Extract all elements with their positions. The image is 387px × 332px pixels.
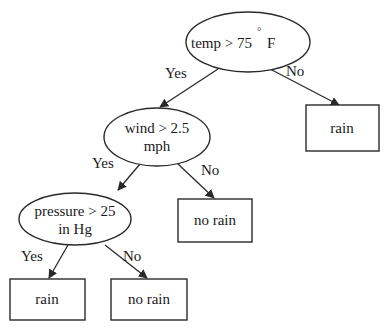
leaf-node-no-rain-middle: no rain: [178, 199, 252, 242]
edge-label-wind-no: No: [201, 162, 219, 178]
edge-label-pressure-no: No: [123, 248, 141, 264]
decision-tree-diagram: Yes No Yes No Yes No temp > 75 ° F wind …: [0, 0, 387, 332]
leaf-node-no-rain-bottom: no rain: [111, 279, 187, 320]
node-wind-line2: mph: [144, 138, 171, 154]
edge-label-root-yes: Yes: [165, 65, 187, 81]
edge-label-wind-yes: Yes: [92, 155, 114, 171]
edges: [49, 69, 339, 278]
edge-label-root-no: No: [286, 63, 304, 79]
node-pressure-line1: pressure > 25: [35, 203, 116, 219]
node-temp-unit: F: [267, 35, 275, 51]
node-pressure-line2: in Hg: [58, 221, 92, 237]
edge-root-no: [270, 69, 339, 105]
decision-node-pressure: pressure > 25 in Hg: [19, 193, 131, 245]
leaf-rain-bottom-left-label: rain: [35, 291, 59, 307]
leaf-rain-right-label: rain: [330, 120, 354, 136]
edge-pressure-yes: [49, 245, 68, 278]
decision-node-temp: temp > 75 ° F: [186, 12, 310, 72]
node-temp-degree: °: [257, 25, 261, 37]
node-temp-label: temp > 75: [191, 35, 252, 51]
leaf-node-rain-right: rain: [306, 105, 379, 151]
leaf-node-rain-bottom-left: rain: [10, 279, 85, 320]
decision-node-wind: wind > 2.5 mph: [104, 108, 210, 166]
node-wind-line1: wind > 2.5: [125, 120, 190, 136]
leaf-no-rain-middle-label: no rain: [194, 212, 237, 228]
leaf-no-rain-bottom-label: no rain: [128, 291, 171, 307]
edge-wind-yes: [118, 164, 140, 190]
edge-label-pressure-yes: Yes: [21, 248, 43, 264]
